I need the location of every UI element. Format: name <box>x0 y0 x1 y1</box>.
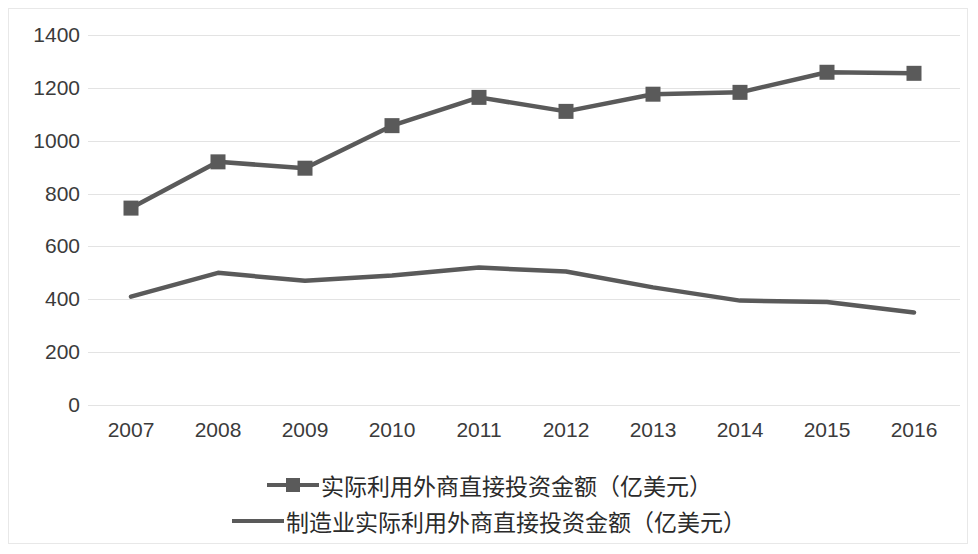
legend-marker-line-icon <box>232 511 284 531</box>
legend-item-manufacturing[interactable]: 制造业实际利用外商直接投资金额（亿美元） <box>0 504 978 538</box>
legend-label-manufacturing: 制造业实际利用外商直接投资金额（亿美元） <box>286 504 746 538</box>
series-2 <box>131 268 914 313</box>
chart-legend: 实际利用外商直接投资金额（亿美元） 制造业实际利用外商直接投资金额（亿美元） <box>0 466 978 546</box>
data-point-marker <box>472 90 487 105</box>
data-point-marker <box>124 201 139 216</box>
series-line <box>131 268 914 313</box>
data-point-marker <box>646 87 661 102</box>
data-point-marker <box>733 85 748 100</box>
legend-label-total: 实际利用外商直接投资金额（亿美元） <box>321 468 712 502</box>
legend-marker-square-icon <box>267 475 319 495</box>
data-point-marker <box>298 161 313 176</box>
series-1 <box>124 65 922 216</box>
series-line <box>131 72 914 208</box>
data-point-marker <box>385 118 400 133</box>
data-point-marker <box>907 66 922 81</box>
legend-item-total[interactable]: 实际利用外商直接投资金额（亿美元） <box>0 468 978 502</box>
data-point-marker <box>559 104 574 119</box>
data-point-marker <box>820 65 835 80</box>
data-point-marker <box>211 154 226 169</box>
chart-container: 0200400600800100012001400 20072008200920… <box>0 0 978 554</box>
